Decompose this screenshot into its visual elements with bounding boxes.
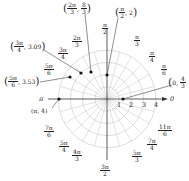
angle-label-4pi-over-3: 4π3 bbox=[72, 149, 82, 163]
point-pi2-2 bbox=[105, 73, 108, 76]
angle-label-2pi-over-3: 2π3 bbox=[72, 35, 82, 49]
point-label-3pi4-309: (3π4, 3.09) bbox=[10, 40, 46, 54]
point-pi-4 bbox=[57, 97, 60, 100]
point-5pi6-353 bbox=[68, 75, 71, 78]
angle-label-5pi-over-4: 5π4 bbox=[59, 140, 69, 154]
angle-label-zero: 0 bbox=[170, 96, 174, 103]
angle-label-3pi-over-4: 3π4 bbox=[58, 47, 68, 61]
radial-label-4: 4 bbox=[154, 102, 158, 109]
angle-label-5pi-over-3: 5π3 bbox=[132, 150, 142, 164]
point-0-4-3 bbox=[121, 97, 124, 100]
polar-grid-diagram bbox=[0, 0, 189, 181]
point-2pi3-8-3 bbox=[89, 70, 92, 73]
angle-label-pi-over-3: π3 bbox=[134, 34, 140, 48]
point-label-5pi6-353: (5π6, 3.53) bbox=[4, 75, 40, 89]
point-3pi4-309 bbox=[79, 71, 82, 74]
radial-label-1: 1 bbox=[117, 102, 121, 109]
angle-label-11pi-over-6: 11π6 bbox=[158, 124, 172, 138]
angle-label-7pi-over-6: 7π6 bbox=[44, 125, 54, 139]
angle-label-pi-over-4: π4 bbox=[149, 50, 155, 64]
radial-label-2: 2 bbox=[129, 102, 133, 109]
angle-label-7pi-over-4: 7π4 bbox=[147, 138, 157, 152]
point-label-0-4-3: (0, 43 bbox=[168, 76, 186, 90]
radial-label-3: 3 bbox=[142, 102, 146, 109]
angle-label-5pi-over-6: 5π6 bbox=[44, 63, 54, 77]
point-label-pi2-2: (π2, 2) bbox=[115, 6, 137, 20]
angle-label-pi-over-6: π6 bbox=[161, 63, 167, 77]
angle-label-3pi-over-2: 3π2 bbox=[100, 164, 110, 178]
point-label-pi-4: (π, 4) bbox=[31, 108, 47, 114]
point-label-2pi3-8-3: (2π3, 83) bbox=[63, 2, 91, 16]
angle-label-pi-over-2: π2 bbox=[102, 22, 108, 36]
angle-label-pi: π bbox=[39, 96, 43, 103]
